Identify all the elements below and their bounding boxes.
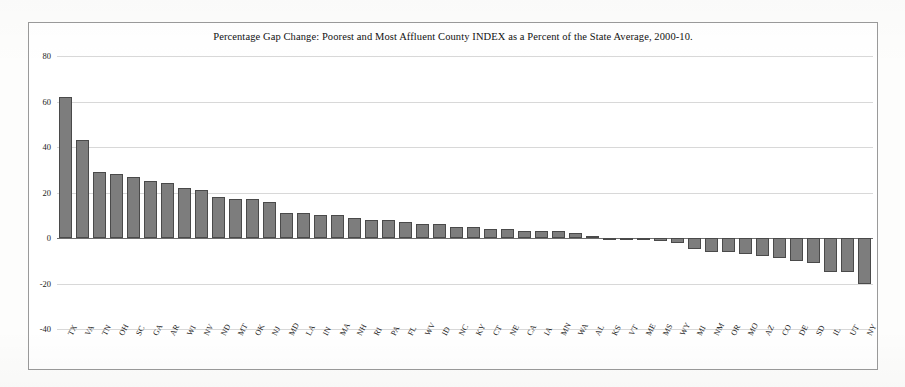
bar: [841, 238, 854, 272]
bar-slot: WI: [176, 56, 193, 329]
bar-slot: CO: [771, 56, 788, 329]
bar: [603, 238, 616, 240]
bar-slot: ID: [431, 56, 448, 329]
bar: [178, 188, 191, 238]
bar-slot: RI: [363, 56, 380, 329]
bar-slot: OH: [108, 56, 125, 329]
bar: [59, 97, 72, 238]
y-axis-tick-label: 20: [43, 188, 52, 198]
bar: [314, 215, 327, 238]
bar-slot: MN: [550, 56, 567, 329]
bar-slot: MT: [227, 56, 244, 329]
bar-slot: SC: [125, 56, 142, 329]
bar-slot: WV: [414, 56, 431, 329]
bar: [705, 238, 718, 252]
bar-slot: NC: [448, 56, 465, 329]
bar: [637, 238, 650, 240]
bar-slot: WY: [669, 56, 686, 329]
bar: [484, 229, 497, 238]
bar: [348, 218, 361, 238]
bar-slot: FL: [397, 56, 414, 329]
bar-slot: NJ: [261, 56, 278, 329]
y-axis-tick-label: -20: [40, 279, 51, 289]
bar: [399, 222, 412, 238]
screenshot-page: Percentage Gap Change: Poorest and Most …: [0, 0, 905, 387]
bar-slot: DE: [788, 56, 805, 329]
bar-slot: CT: [482, 56, 499, 329]
bar: [807, 238, 820, 263]
x-axis-tick-label: NY: [865, 322, 879, 337]
bar-slot: ME: [635, 56, 652, 329]
bar: [518, 231, 531, 238]
bar-slot: SD: [805, 56, 822, 329]
bar-slot: MA: [329, 56, 346, 329]
bar: [552, 231, 565, 238]
bar: [263, 202, 276, 238]
bar-slot: ND: [210, 56, 227, 329]
bar: [569, 233, 582, 238]
bar-slot: NM: [703, 56, 720, 329]
bar: [76, 140, 89, 238]
bar: [535, 231, 548, 238]
bar-slot: GA: [142, 56, 159, 329]
bar-slot: IL: [822, 56, 839, 329]
plot-area: 806040200-20-40 TXVATNOHSCGAARWINVNDMTOK…: [57, 56, 873, 329]
bar-series: TXVATNOHSCGAARWINVNDMTOKNJMDLAINMANHRIPA…: [57, 56, 873, 329]
bar: [127, 177, 140, 238]
bar: [229, 199, 242, 238]
bar: [416, 224, 429, 238]
bar: [858, 238, 871, 284]
bar: [212, 197, 225, 238]
bar-slot: AR: [159, 56, 176, 329]
bar: [297, 213, 310, 238]
bar: [246, 199, 259, 238]
chart-frame: Percentage Gap Change: Poorest and Most …: [28, 22, 878, 370]
bar-slot: MD: [278, 56, 295, 329]
bar: [773, 238, 786, 258]
bar-slot: VT: [618, 56, 635, 329]
bar: [654, 238, 667, 241]
y-axis-tick-label: 40: [43, 142, 52, 152]
bar-slot: VA: [74, 56, 91, 329]
bar: [433, 224, 446, 238]
bar-slot: OR: [720, 56, 737, 329]
bar: [365, 220, 378, 238]
bar-slot: OK: [244, 56, 261, 329]
bar-slot: UT: [839, 56, 856, 329]
y-axis-tick-label: 0: [47, 233, 51, 243]
bar-slot: AL: [584, 56, 601, 329]
bar-slot: KY: [465, 56, 482, 329]
bar: [382, 220, 395, 238]
bar-slot: TX: [57, 56, 74, 329]
bar-slot: NH: [346, 56, 363, 329]
bar: [195, 190, 208, 238]
bar-slot: NY: [856, 56, 873, 329]
y-axis-tick-label: -40: [40, 324, 51, 334]
bar: [824, 238, 837, 272]
bar: [501, 229, 514, 238]
bar: [93, 172, 106, 238]
bar-slot: PA: [380, 56, 397, 329]
chart-title: Percentage Gap Change: Poorest and Most …: [29, 31, 877, 42]
bar: [790, 238, 803, 261]
bar-slot: MI: [686, 56, 703, 329]
bar-slot: IN: [312, 56, 329, 329]
bar-slot: NV: [193, 56, 210, 329]
y-axis-tick-label: 60: [43, 97, 52, 107]
bar-slot: IA: [533, 56, 550, 329]
bar-slot: CA: [516, 56, 533, 329]
bar-slot: WA: [567, 56, 584, 329]
bar-slot: LA: [295, 56, 312, 329]
bar-slot: MS: [652, 56, 669, 329]
bar: [586, 236, 599, 238]
bar-slot: MO: [737, 56, 754, 329]
bar: [280, 213, 293, 238]
bar: [620, 238, 633, 240]
bar-slot: NE: [499, 56, 516, 329]
bar: [331, 215, 344, 238]
bar-slot: TN: [91, 56, 108, 329]
bar-slot: AZ: [754, 56, 771, 329]
bar: [722, 238, 735, 252]
bar: [450, 227, 463, 238]
bar: [671, 238, 684, 243]
